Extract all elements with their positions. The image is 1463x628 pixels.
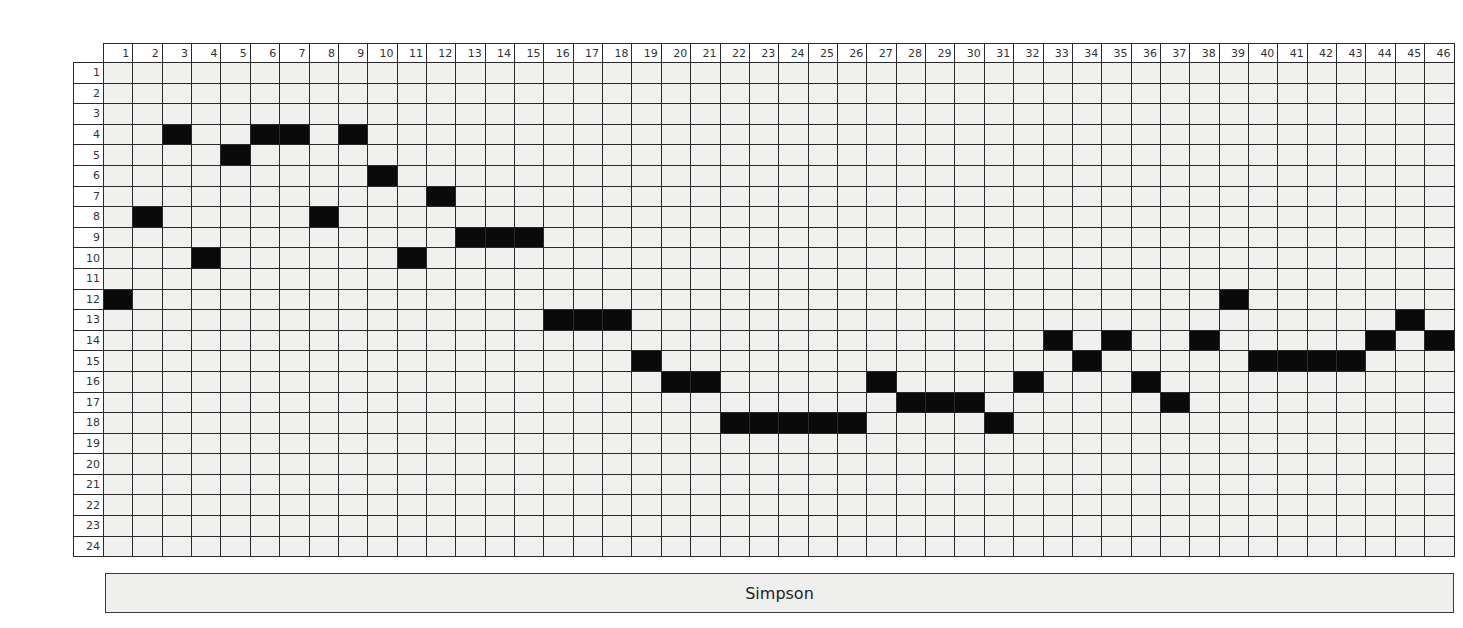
- grid-cell[interactable]: [1425, 433, 1454, 454]
- grid-cell[interactable]: [1395, 474, 1424, 495]
- grid-cell[interactable]: [1278, 474, 1307, 495]
- grid-cell[interactable]: [397, 474, 426, 495]
- grid-cell[interactable]: [162, 268, 191, 289]
- grid-cell[interactable]: [926, 268, 955, 289]
- grid-cell[interactable]: [192, 516, 221, 537]
- grid-cell[interactable]: [221, 289, 250, 310]
- grid-cell[interactable]: [1337, 289, 1366, 310]
- grid-cell[interactable]: [250, 145, 279, 166]
- grid-cell[interactable]: [926, 536, 955, 557]
- grid-cell[interactable]: [1043, 207, 1072, 228]
- grid-cell[interactable]: [397, 392, 426, 413]
- grid-cell[interactable]: [544, 454, 573, 475]
- grid-cell[interactable]: [133, 63, 162, 84]
- grid-cell[interactable]: [456, 124, 485, 145]
- grid-cell[interactable]: [1102, 268, 1131, 289]
- grid-cell[interactable]: [955, 207, 984, 228]
- grid-cell[interactable]: [867, 248, 896, 269]
- grid-cell[interactable]: [749, 392, 778, 413]
- grid-cell[interactable]: [104, 207, 133, 228]
- grid-cell[interactable]: [456, 330, 485, 351]
- filled-cell[interactable]: [837, 413, 866, 434]
- grid-cell[interactable]: [1337, 371, 1366, 392]
- grid-cell[interactable]: [661, 289, 690, 310]
- grid-cell[interactable]: [926, 186, 955, 207]
- grid-cell[interactable]: [309, 310, 338, 331]
- grid-cell[interactable]: [1366, 207, 1395, 228]
- grid-cell[interactable]: [1337, 248, 1366, 269]
- grid-cell[interactable]: [808, 289, 837, 310]
- grid-cell[interactable]: [896, 248, 925, 269]
- grid-cell[interactable]: [661, 83, 690, 104]
- grid-cell[interactable]: [779, 330, 808, 351]
- grid-cell[interactable]: [1014, 474, 1043, 495]
- grid-cell[interactable]: [1160, 186, 1189, 207]
- grid-cell[interactable]: [1395, 413, 1424, 434]
- grid-cell[interactable]: [1160, 516, 1189, 537]
- grid-cell[interactable]: [515, 536, 544, 557]
- grid-cell[interactable]: [544, 433, 573, 454]
- grid-cell[interactable]: [544, 289, 573, 310]
- grid-cell[interactable]: [661, 124, 690, 145]
- grid-cell[interactable]: [1307, 433, 1336, 454]
- grid-cell[interactable]: [603, 413, 632, 434]
- grid-cell[interactable]: [397, 268, 426, 289]
- grid-cell[interactable]: [1072, 104, 1101, 125]
- grid-cell[interactable]: [1249, 165, 1278, 186]
- grid-cell[interactable]: [691, 516, 720, 537]
- grid-cell[interactable]: [1160, 268, 1189, 289]
- grid-cell[interactable]: [456, 371, 485, 392]
- grid-cell[interactable]: [338, 413, 367, 434]
- grid-cell[interactable]: [426, 495, 455, 516]
- grid-cell[interactable]: [1131, 248, 1160, 269]
- grid-cell[interactable]: [162, 83, 191, 104]
- grid-cell[interactable]: [192, 330, 221, 351]
- grid-cell[interactable]: [162, 516, 191, 537]
- grid-cell[interactable]: [984, 310, 1013, 331]
- grid-cell[interactable]: [573, 474, 602, 495]
- grid-cell[interactable]: [250, 413, 279, 434]
- grid-cell[interactable]: [515, 433, 544, 454]
- grid-cell[interactable]: [515, 186, 544, 207]
- filled-cell[interactable]: [338, 124, 367, 145]
- grid-cell[interactable]: [309, 83, 338, 104]
- grid-cell[interactable]: [426, 392, 455, 413]
- grid-cell[interactable]: [984, 63, 1013, 84]
- grid-cell[interactable]: [162, 536, 191, 557]
- grid-cell[interactable]: [1072, 413, 1101, 434]
- grid-cell[interactable]: [162, 289, 191, 310]
- filled-cell[interactable]: [1307, 351, 1336, 372]
- grid-cell[interactable]: [896, 227, 925, 248]
- grid-cell[interactable]: [1307, 392, 1336, 413]
- grid-cell[interactable]: [720, 207, 749, 228]
- grid-cell[interactable]: [603, 351, 632, 372]
- grid-cell[interactable]: [632, 165, 661, 186]
- grid-cell[interactable]: [104, 516, 133, 537]
- grid-cell[interactable]: [1278, 536, 1307, 557]
- grid-cell[interactable]: [896, 186, 925, 207]
- grid-cell[interactable]: [1190, 351, 1219, 372]
- grid-cell[interactable]: [544, 63, 573, 84]
- grid-cell[interactable]: [1249, 145, 1278, 166]
- grid-cell[interactable]: [397, 104, 426, 125]
- grid-cell[interactable]: [1072, 124, 1101, 145]
- grid-cell[interactable]: [426, 289, 455, 310]
- grid-cell[interactable]: [1425, 104, 1454, 125]
- grid-cell[interactable]: [1043, 413, 1072, 434]
- grid-cell[interactable]: [1278, 104, 1307, 125]
- grid-cell[interactable]: [250, 248, 279, 269]
- grid-cell[interactable]: [749, 104, 778, 125]
- grid-cell[interactable]: [603, 145, 632, 166]
- grid-cell[interactable]: [1395, 268, 1424, 289]
- grid-cell[interactable]: [1072, 83, 1101, 104]
- grid-cell[interactable]: [691, 207, 720, 228]
- grid-cell[interactable]: [749, 207, 778, 228]
- grid-cell[interactable]: [338, 289, 367, 310]
- grid-cell[interactable]: [1425, 186, 1454, 207]
- grid-cell[interactable]: [338, 83, 367, 104]
- grid-cell[interactable]: [397, 289, 426, 310]
- grid-cell[interactable]: [250, 207, 279, 228]
- grid-cell[interactable]: [955, 516, 984, 537]
- grid-cell[interactable]: [691, 186, 720, 207]
- grid-cell[interactable]: [544, 536, 573, 557]
